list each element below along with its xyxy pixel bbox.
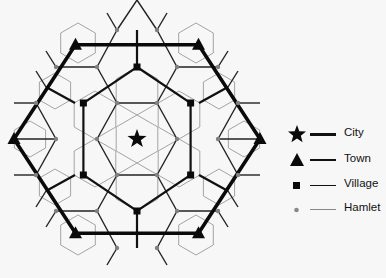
legend-label: Town bbox=[344, 152, 371, 164]
legend-label: Hamlet bbox=[344, 201, 380, 213]
legend-label: City bbox=[344, 126, 364, 138]
legend-item-town: Town bbox=[288, 150, 386, 170]
town-line-sample bbox=[310, 159, 336, 161]
city-line-sample bbox=[310, 133, 336, 136]
star-icon bbox=[288, 124, 306, 144]
legend-label: Village bbox=[344, 177, 378, 189]
village-line-sample bbox=[310, 185, 336, 186]
legend-item-hamlet: Hamlet bbox=[288, 199, 386, 219]
triangle-icon bbox=[288, 150, 306, 170]
dot-icon bbox=[288, 199, 306, 219]
city-star-icon bbox=[128, 129, 147, 147]
square-icon bbox=[288, 175, 306, 195]
legend-item-village: Village bbox=[288, 175, 386, 195]
legend-item-city: City bbox=[288, 124, 386, 144]
hamlet-line-sample bbox=[310, 209, 336, 210]
